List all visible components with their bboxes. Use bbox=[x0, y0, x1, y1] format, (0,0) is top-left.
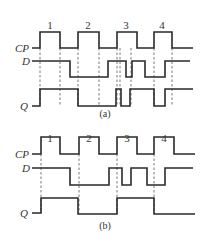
clock-pulse-number: 1 bbox=[47, 132, 53, 144]
q-waveform bbox=[32, 89, 193, 106]
clock-pulse-number: 1 bbox=[47, 19, 53, 31]
timing-diagram-b: CPDQ1234(b) bbox=[15, 132, 195, 232]
q-signal-label: Q bbox=[20, 100, 28, 112]
diagram-caption: (b) bbox=[99, 220, 111, 232]
timing-diagram-canvas: CPDQ1234(a)CPDQ1234(b) bbox=[0, 0, 209, 244]
clock-pulse-number: 3 bbox=[124, 132, 130, 144]
clock-pulse-number: 2 bbox=[86, 132, 92, 144]
diagram-caption: (a) bbox=[99, 108, 110, 120]
cp-signal-label: CP bbox=[15, 148, 29, 160]
d-waveform bbox=[32, 61, 190, 77]
clock-pulse-number: 3 bbox=[123, 19, 129, 31]
cp-waveform bbox=[32, 32, 193, 48]
clock-pulse-number: 4 bbox=[159, 19, 165, 31]
d-signal-label: D bbox=[21, 162, 30, 174]
q-signal-label: Q bbox=[20, 207, 28, 219]
cp-signal-label: CP bbox=[15, 42, 29, 54]
q-waveform bbox=[32, 198, 195, 214]
timing-diagram-a: CPDQ1234(a) bbox=[15, 19, 193, 120]
clock-pulse-number: 2 bbox=[85, 19, 91, 31]
d-signal-label: D bbox=[21, 55, 30, 67]
clock-pulse-number: 4 bbox=[161, 132, 167, 144]
cp-waveform bbox=[32, 137, 195, 154]
d-waveform bbox=[32, 168, 193, 185]
